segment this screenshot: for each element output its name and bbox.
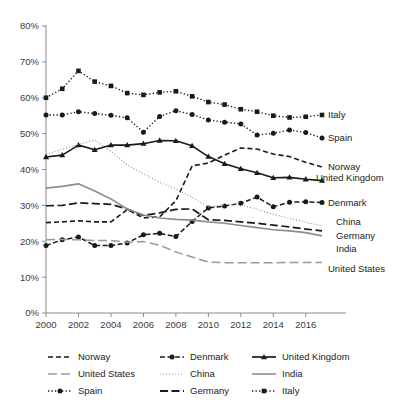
legend-item-label: Denmark [190,351,229,362]
x-tick-label: 2008 [165,319,186,330]
legend-item-germany[interactable]: Germany [160,385,229,396]
data-point-square [44,95,49,100]
legend-item-label: India [282,368,303,379]
end-label-united-kingdom: United Kingdom [316,172,384,183]
end-label-norway: Norway [328,161,360,172]
end-label-group: ItalySpainNorwayUnited KingdomDenmarkChi… [316,109,385,274]
end-label-china: China [336,216,362,227]
data-point-square [222,102,227,107]
data-point-square [271,113,276,118]
data-point-circle [287,200,292,205]
y-tick-label: 60% [20,92,40,103]
data-point-circle [141,232,146,237]
legend-item-china[interactable]: China [160,368,216,379]
data-point-square [125,91,130,96]
data-point-circle [44,243,49,248]
y-tick-label: 20% [20,236,40,247]
data-point-circle [271,131,276,136]
y-tick-label: 50% [20,128,40,139]
data-point-circle [238,201,243,206]
data-point-square [262,389,267,394]
data-point-circle [255,195,260,200]
data-point-circle [76,234,81,239]
y-axis-tick-group: 0%10%20%30%40%50%60%70%80% [20,20,46,318]
x-tick-label: 2010 [198,319,219,330]
end-label-italy: Italy [328,109,346,120]
data-point-circle [303,130,308,135]
x-tick-label: 2006 [133,319,154,330]
legend-item-label: Germany [190,385,229,396]
series-group [43,69,325,263]
data-point-circle [303,199,308,204]
legend-item-norway[interactable]: Norway [48,351,110,362]
x-tick-label: 2016 [295,319,316,330]
data-point-circle [58,389,63,394]
x-axis-tick-group: 200020022004200620082010201220142016 [35,313,316,330]
data-point-circle [170,355,175,360]
legend-item-label: Italy [282,385,300,396]
data-point-circle [125,115,130,120]
end-label-india: India [336,243,357,254]
y-tick-label: 80% [20,20,40,31]
series-line [46,71,322,118]
data-point-circle [173,234,178,239]
series-united-kingdom [43,137,325,182]
series-line [46,239,322,262]
y-tick-label: 70% [20,56,40,67]
data-point-circle [320,135,325,140]
data-point-circle [76,109,81,114]
end-label-germany: Germany [336,230,375,241]
legend-item-united-kingdom[interactable]: United Kingdom [252,351,350,362]
legend-item-label: United States [78,368,135,379]
axis-lines [46,25,346,313]
legend-item-india[interactable]: India [252,368,303,379]
data-point-circle [190,112,195,117]
data-point-circle [206,205,211,210]
data-point-square [141,93,146,98]
x-tick-label: 2014 [263,319,284,330]
data-point-square [76,69,81,74]
y-tick-label: 40% [20,164,40,175]
data-point-circle [238,121,243,126]
data-point-circle [287,128,292,133]
data-point-square [157,90,162,95]
legend-item-united-states[interactable]: United States [48,368,135,379]
end-label-denmark: Denmark [328,197,367,208]
data-point-square [287,115,292,120]
legend-item-label: Spain [78,385,102,396]
x-tick-label: 2004 [100,319,121,330]
chart-container: 0%10%20%30%40%50%60%70%80% 2000200220042… [0,0,393,407]
series-line [46,148,322,223]
legend-item-label: Norway [78,351,110,362]
data-point-circle [206,117,211,122]
series-germany [46,203,322,231]
legend-item-denmark[interactable]: Denmark [160,351,229,362]
series-line [46,111,322,138]
data-point-circle [255,133,260,138]
data-point-circle [92,243,97,248]
data-point-square [303,114,308,119]
y-tick-label: 30% [20,200,40,211]
series-spain [44,108,325,140]
data-point-circle [157,231,162,236]
data-point-square [320,113,325,118]
data-point-circle [271,204,276,209]
data-point-square [190,94,195,99]
data-point-circle [44,112,49,117]
data-point-square [92,79,97,84]
series-norway [46,148,322,223]
data-point-circle [108,243,113,248]
series-united-states [46,239,322,262]
data-point-circle [173,108,178,113]
data-point-square [60,86,65,91]
x-tick-label: 2012 [230,319,251,330]
end-label-united-states: United States [328,263,385,274]
data-point-circle [320,200,325,205]
legend-item-spain[interactable]: Spain [48,385,102,396]
series-line [46,140,322,180]
legend: NorwayDenmarkUnited KingdomUnited States… [48,351,350,396]
x-tick-label: 2000 [35,319,56,330]
legend-item-italy[interactable]: Italy [252,385,300,396]
data-point-circle [60,112,65,117]
legend-item-label: United Kingdom [282,351,350,362]
